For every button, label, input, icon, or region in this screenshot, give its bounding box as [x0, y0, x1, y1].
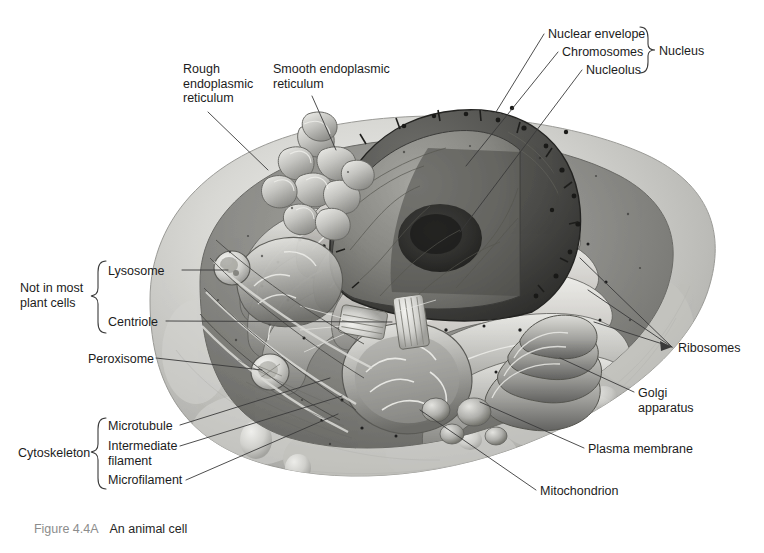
label-smooth-endoplasmic-reticulum: Smooth endoplasmic reticulum	[273, 62, 390, 91]
leader-mitochondrion	[420, 410, 536, 490]
leader-ribosomes-2	[588, 290, 672, 347]
surface-vesicles	[240, 386, 618, 482]
label-rough-endoplasmic-reticulum: Rough endoplasmic reticulum	[183, 62, 253, 106]
group-braces	[91, 27, 655, 489]
golgi-apparatus-shape	[485, 315, 602, 431]
leader-rough-er	[208, 112, 268, 170]
ribosomes-arrowhead	[660, 341, 672, 351]
label-golgi-apparatus: Golgi apparatus	[638, 386, 694, 415]
group-label-cytoskeleton: Cytoskeleton	[18, 446, 90, 461]
figure-number: Figure 4.4A	[34, 522, 99, 536]
leader-centriole	[166, 321, 392, 322]
envelope-rim	[332, 110, 578, 292]
figure-animal-cell: Rough endoplasmic reticulum Smooth endop…	[0, 0, 764, 553]
leader-smooth-er	[312, 96, 336, 150]
leader-intermediate-filament	[180, 396, 342, 446]
nucleoplasm-cut-face	[332, 131, 520, 309]
chromosomes-shape	[344, 148, 518, 300]
label-ribosomes: Ribosomes	[678, 341, 741, 356]
membrane-bulges	[162, 272, 694, 492]
smooth-endoplasmic-reticulum-shape	[262, 112, 375, 240]
leader-peroxisome	[156, 358, 262, 370]
nuclear-pore-stipple	[402, 106, 581, 299]
nuclear-envelope-shape	[330, 110, 581, 321]
group-label-not-in-plant-cells: Not in most plant cells	[20, 281, 83, 310]
leader-chromosomes	[466, 52, 558, 166]
label-peroxisome: Peroxisome	[88, 352, 154, 367]
label-mitochondrion: Mitochondrion	[540, 484, 619, 499]
label-intermediate-filament: Intermediate filament	[108, 439, 177, 468]
group-label-nucleus: Nucleus	[659, 44, 704, 59]
peroxisome-shape	[251, 354, 289, 390]
cytoskeleton-shape	[200, 240, 372, 448]
ribosome-stipple	[260, 166, 607, 437]
leader-ribosomes-1	[580, 258, 672, 347]
centriole-shape	[300, 294, 436, 352]
nucleolus-shape	[398, 204, 482, 272]
plasma-membrane-shape	[150, 116, 715, 476]
figure-title: An animal cell	[110, 522, 188, 536]
label-lysosome: Lysosome	[108, 264, 165, 279]
golgi-vesicles	[422, 398, 507, 445]
label-chromosomes: Chromosomes	[562, 45, 643, 60]
label-microtubule: Microtubule	[108, 419, 173, 434]
lysosome-shape	[214, 251, 250, 285]
leader-nucleolus	[460, 70, 582, 232]
leader-microfilament	[186, 414, 338, 480]
leader-microtubule	[180, 378, 330, 425]
label-plasma-membrane: Plasma membrane	[588, 442, 693, 457]
leader-plasma-membrane	[480, 402, 584, 448]
label-microfilament: Microfilament	[108, 473, 182, 488]
leader-golgi	[560, 358, 634, 392]
brace-cytoskeleton	[91, 418, 106, 489]
brace-not-in-plant-cells	[91, 261, 106, 333]
label-nucleolus: Nucleolus	[586, 63, 641, 78]
cytosol-stipple	[217, 145, 641, 453]
label-nuclear-envelope: Nuclear envelope	[548, 27, 645, 42]
leader-ribosomes-3	[594, 322, 672, 347]
figure-caption: Figure 4.4AAn animal cell	[20, 508, 187, 550]
leader-nuclear-envelope	[496, 34, 544, 112]
cytoplasm	[200, 138, 673, 448]
mitochondrion-shape	[237, 237, 472, 433]
label-centriole: Centriole	[108, 315, 158, 330]
golgi-highlights	[492, 332, 568, 398]
ser-highlights	[274, 121, 330, 219]
nucleus-shape	[330, 106, 581, 321]
rough-endoplasmic-reticulum-shape	[239, 159, 636, 458]
